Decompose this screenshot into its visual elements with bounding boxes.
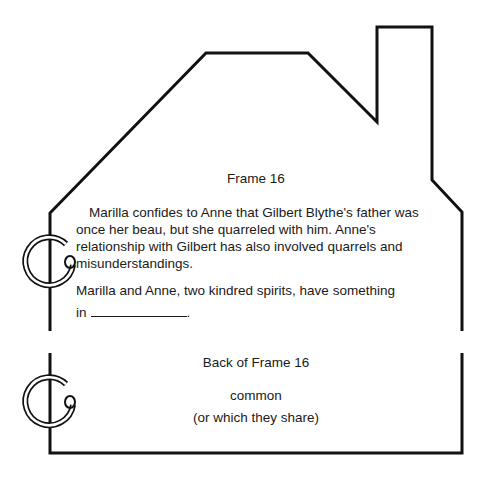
frame-title: Frame 16: [50, 171, 462, 186]
frame-prompt: Marilla and Anne, two kindred spirits, h…: [76, 283, 395, 298]
frame-paragraph: Marilla confides to Anne that Gilbert Bl…: [76, 204, 426, 272]
back-answer: common: [50, 388, 462, 403]
frame-paragraph-text: Marilla confides to Anne that Gilbert Bl…: [76, 204, 426, 272]
back-title: Back of Frame 16: [50, 355, 462, 370]
frame-prompt-blank-line: in.: [76, 305, 190, 320]
prompt-prefix: in: [76, 305, 87, 320]
answer-blank: [91, 306, 187, 317]
prompt-suffix: .: [187, 305, 191, 320]
back-alternate-answer: (or which they share): [50, 410, 462, 425]
